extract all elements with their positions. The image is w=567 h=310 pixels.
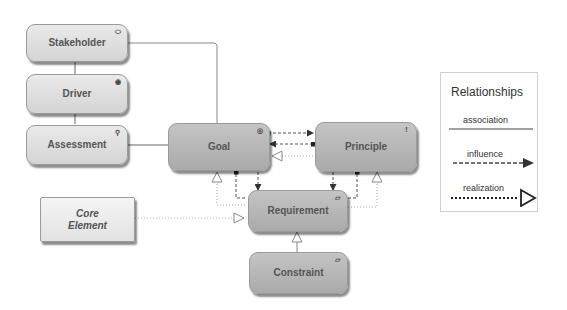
node-constraint[interactable]: Constraint ▱ xyxy=(249,252,348,294)
node-stakeholder[interactable]: Stakeholder ⬭ xyxy=(26,24,128,62)
node-label: Constraint xyxy=(274,267,324,279)
node-label-line1: Core xyxy=(76,208,99,220)
goal-icon: ◎ xyxy=(255,127,264,134)
assoc-stakeholder-goal xyxy=(128,43,217,125)
node-label: Requirement xyxy=(267,205,328,217)
legend-association-label: association xyxy=(463,115,508,125)
assessment-icon: ⚲ xyxy=(113,129,122,136)
constraint-icon: ▱ xyxy=(333,256,342,263)
node-label: Driver xyxy=(63,88,92,100)
node-label: Assessment xyxy=(48,139,107,151)
requirement-icon: ▱ xyxy=(333,194,342,201)
node-label: Goal xyxy=(208,141,230,153)
node-assessment[interactable]: Assessment ⚲ xyxy=(26,125,128,165)
driver-icon: ◉ xyxy=(113,78,122,85)
legend-title: Relationships xyxy=(451,85,523,99)
relationships-legend: Relationships association influence real… xyxy=(440,72,538,212)
node-principle[interactable]: Principle ! xyxy=(315,122,417,172)
node-goal[interactable]: Goal ◎ xyxy=(168,123,270,171)
node-requirement[interactable]: Requirement ▱ xyxy=(248,190,348,232)
influence-arrow-icon xyxy=(453,157,535,169)
node-label: Principle xyxy=(345,141,387,153)
association-line-icon xyxy=(449,127,533,131)
node-label-line2: Element xyxy=(68,220,107,232)
diagram-canvas: Stakeholder ⬭ Driver ◉ Assessment ⚲ Goal… xyxy=(0,0,567,310)
node-driver[interactable]: Driver ◉ xyxy=(26,74,128,114)
node-core-element[interactable]: Core Element xyxy=(40,197,135,242)
realization-arrow-icon xyxy=(451,187,537,207)
principle-icon: ! xyxy=(402,126,411,133)
stakeholder-icon: ⬭ xyxy=(113,28,122,35)
node-label: Stakeholder xyxy=(48,37,105,49)
